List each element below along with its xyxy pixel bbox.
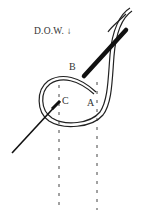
point-b-label: B [69, 62, 76, 72]
yarn-tail [108, 14, 126, 32]
point-a-label: A [87, 98, 94, 108]
hook-b [84, 30, 126, 76]
point-c-label: C [62, 96, 69, 106]
direction-of-work-label: D.O.W. ↓ [34, 27, 72, 37]
